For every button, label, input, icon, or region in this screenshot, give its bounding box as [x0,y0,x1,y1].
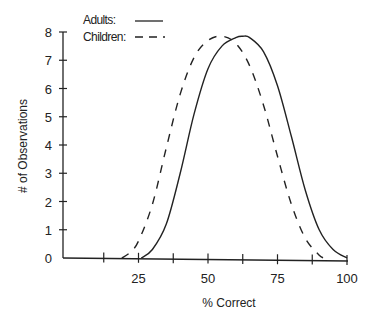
x-axis-title: % Correct [202,296,256,310]
y-tick-label: 7 [45,53,52,68]
y-tick-label: 0 [45,251,52,266]
x-tick-label: 100 [336,271,358,286]
y-tick-label: 4 [45,138,52,153]
legend-label-children: Children: [83,30,126,44]
y-tick-label: 1 [45,223,52,238]
adults-curve [141,36,347,258]
y-ticks: 012345678 [45,25,67,266]
x-tick-label: 25 [131,271,145,286]
y-tick-label: 8 [45,25,52,40]
y-tick-label: 6 [45,82,52,97]
y-tick-label: 3 [45,166,52,181]
line-chart: 012345678 255075100 # of Observations % … [0,0,383,327]
x-tick-label: 50 [201,271,215,286]
x-axis [63,258,348,261]
y-tick-label: 2 [45,195,52,210]
y-axis-title: # of Observations [16,99,30,193]
series-lines [122,36,347,258]
legend-label-adults: Adults: [83,13,116,27]
legend: Adults: Children: [83,13,165,44]
x-tick-label: 75 [270,271,284,286]
axes [63,32,348,261]
y-tick-label: 5 [45,110,52,125]
